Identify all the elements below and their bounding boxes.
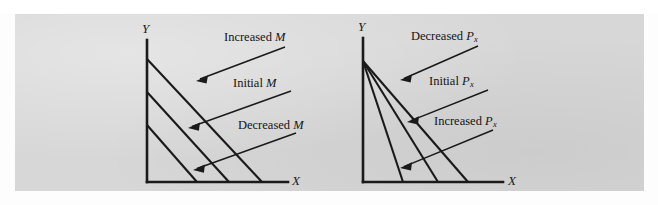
label-increased-px-subscript: x <box>493 119 497 129</box>
annotation-leader-decreased-m <box>193 133 296 173</box>
label-initial-px-prefix: Initial <box>429 74 462 88</box>
page-top-margin <box>0 0 658 14</box>
label-decreased-px: Decreased Px <box>411 30 478 44</box>
budget-line-initial-m <box>147 92 229 182</box>
budget-line-decreased-m <box>147 125 197 182</box>
label-increased-px-symbol: P <box>485 114 493 128</box>
label-decreased-m-prefix: Decreased <box>238 118 293 132</box>
label-initial-px: Initial Px <box>429 75 474 89</box>
label-decreased-px-prefix: Decreased <box>411 29 466 43</box>
budget-line-initial-px <box>363 61 438 182</box>
right-y-axis-label: Y <box>358 20 365 33</box>
right-x-axis-label: X <box>508 174 516 187</box>
left-x-axis-label: X <box>292 174 300 187</box>
label-initial-px-symbol: P <box>462 74 470 88</box>
budget-line-increased-px <box>363 61 403 182</box>
label-increased-m-prefix: Increased <box>224 30 275 44</box>
label-increased-m-symbol: M <box>275 30 285 44</box>
label-decreased-px-subscript: x <box>474 34 478 44</box>
figure-page: Y X Increased M Initial M Decreased M <box>0 0 658 205</box>
label-decreased-px-symbol: P <box>466 29 474 43</box>
label-initial-m-symbol: M <box>266 76 276 90</box>
label-initial-m-prefix: Initial <box>233 76 266 90</box>
label-initial-m: Initial M <box>233 77 276 90</box>
chart-price-effect <box>330 0 658 205</box>
annotation-leader-increased-px <box>400 130 493 171</box>
label-decreased-m: Decreased M <box>238 119 304 132</box>
left-y-axis-label: Y <box>142 22 149 35</box>
label-increased-px: Increased Px <box>434 115 497 129</box>
label-increased-m: Increased M <box>224 31 285 44</box>
label-increased-px-prefix: Increased <box>434 114 485 128</box>
label-decreased-m-symbol: M <box>293 118 303 132</box>
label-initial-px-subscript: x <box>470 79 474 89</box>
